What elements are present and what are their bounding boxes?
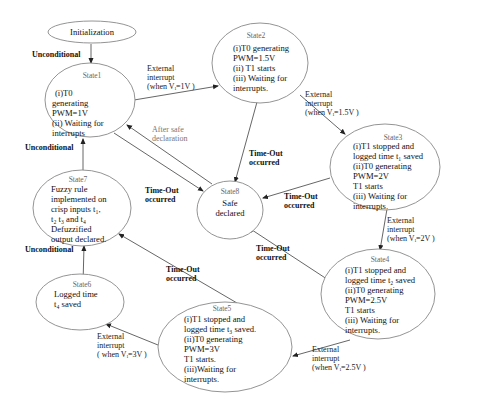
node-state4: State4 (i)T1 stopped and logged time t₂ …: [321, 249, 435, 339]
node-line: interrupts.: [345, 325, 380, 335]
node-line: crisp inputs t₁,: [51, 204, 101, 214]
node-line: (i)T1 stopped and: [184, 314, 246, 324]
node-title: State7: [69, 175, 88, 184]
node-line: implemented on: [51, 194, 107, 204]
node-state6: State6 Logged time t₄ saved: [36, 274, 124, 330]
node-title: State4: [371, 255, 390, 264]
node-line: Fuzzy rule: [51, 184, 88, 194]
node-state5: State5 (i)T1 stopped and logged time t₃ …: [158, 302, 292, 392]
node-state8: State8 Safe declared: [197, 181, 263, 239]
node-line: T1 starts: [345, 305, 375, 315]
edge-label-s1-s8: occurred: [145, 195, 176, 204]
edge-label-s3-s8: Time-Out: [284, 192, 318, 201]
edge-label-s4-s5: External: [312, 345, 340, 354]
node-line: (i)T0 generating: [233, 43, 290, 53]
node-line: PWM=1.5V: [233, 53, 276, 63]
node-title: State5: [213, 304, 232, 313]
edge-label-s3-s8: occurred: [284, 201, 315, 210]
edge-label-s1-s2: External: [147, 64, 175, 73]
edge-label-s4-s5: interrupt: [312, 354, 340, 363]
node-initialization: Initialization: [48, 21, 136, 43]
node-line: logged time t₃ saved.: [184, 324, 256, 334]
node-line: PWM=3V: [184, 344, 221, 354]
node-line: (ii) Waiting for: [52, 118, 104, 128]
node-line: (ii)T0 generating: [184, 334, 243, 344]
edge-label-s5-s7: occurred: [166, 274, 197, 283]
node-line: Logged time: [54, 289, 98, 299]
node-line: interrupts.: [353, 201, 388, 211]
edge-label-s2-s3: External: [305, 90, 333, 99]
node-line: T1 starts.: [184, 354, 216, 364]
node-line: t₂ t₃ and t₄: [51, 214, 86, 224]
edge-label-s2-s8: occurred: [249, 158, 280, 167]
edge-label-unconditional-s6-s7: Unconditional: [25, 245, 74, 254]
node-line: (ii)T0 generating: [345, 285, 404, 295]
edge-label-s2-s3: (when Vᵢ=1.5V ): [305, 108, 359, 117]
node-title: State6: [73, 280, 92, 289]
node-line: (ii)T0 generating: [353, 161, 412, 171]
node-line: output declared.: [51, 234, 106, 244]
node-state2: State2 (i)T0 generating PWM=1.5V (ii) T1…: [212, 23, 308, 103]
node-state7: State7 Fuzzy rule implemented on crisp i…: [33, 170, 131, 246]
edge-label-s5-s6: interrupt: [97, 341, 125, 350]
node-line: (i)T0: [55, 88, 73, 98]
edge-label-unconditional-s7-s1: Unconditional: [25, 143, 74, 152]
node-line: generating: [52, 98, 89, 108]
edge-label-s4-s5: (when Vᵢ=2.5V ): [312, 363, 366, 372]
edge-label-s8-s1: After safe: [152, 125, 184, 134]
edge-state2-to-state8: [235, 102, 257, 182]
node-state1: State1 (i)T0 generating PWM=1V (ii) Wait…: [45, 63, 135, 138]
node-title: State2: [247, 31, 266, 40]
node-line: (i)T1 stopped and: [353, 141, 415, 151]
node-title: State8: [221, 187, 240, 196]
edge-label-s3-s4: (when Vᵢ=2V ): [387, 234, 435, 243]
node-line: (iii) Waiting for: [353, 191, 407, 201]
edge-label-s2-s3: interrupt: [305, 99, 333, 108]
edge-label-s1-s2: interrupt: [147, 73, 175, 82]
edge-label-s1-s2: (when Vᵢ=1V ): [147, 82, 195, 91]
node-line: Safe: [222, 198, 237, 208]
state-diagram: Initialization State1 (i)T0 generating P…: [0, 0, 481, 408]
node-line: PWM=1V: [52, 108, 89, 118]
edge-label-s5-s7: Time-Out: [166, 265, 200, 274]
node-line: (iii)Waiting for: [184, 364, 236, 374]
node-line: interrupts.: [184, 374, 219, 384]
node-line: (iii) Waiting for: [233, 73, 287, 83]
node-line: logged time t₁ saved: [353, 151, 424, 161]
edge-label-s3-s4: External: [387, 216, 415, 225]
edge-state3-to-state4: [380, 209, 387, 250]
node-line: logged time t₂ saved: [345, 275, 416, 285]
edge-label-s3-s4: interrupt: [387, 225, 415, 234]
node-line: interrupts.: [233, 83, 268, 93]
edge-label-s2-s8: Time-Out: [249, 149, 283, 158]
node-line: interrupts: [52, 128, 86, 138]
node-line: PWM=2.5V: [345, 295, 388, 305]
node-line: PWM=2V: [353, 171, 390, 181]
node-line: t₄ saved: [54, 299, 82, 309]
node-line: T1 starts: [353, 181, 383, 191]
node-title: State1: [83, 71, 102, 80]
node-line: declared: [215, 208, 245, 218]
node-state3: State3 (i)T1 stopped and logged time t₁ …: [330, 124, 440, 211]
node-line: (i)T1 stopped and: [345, 265, 407, 275]
node-line: (ii) T1 starts: [233, 63, 276, 73]
edge-label-s8-s1: declaration: [152, 134, 188, 143]
node-line: (iii) Waiting for: [345, 315, 399, 325]
edge-label-s4-s8: occurred: [256, 253, 287, 262]
edge-label-s5-s6: ( when Vᵢ=3V ): [97, 350, 147, 359]
edge-label-unconditional-init: Unconditional: [32, 50, 81, 59]
edge-label-s5-s6: External: [97, 332, 125, 341]
edge-label-s4-s8: Time-Out: [256, 244, 290, 253]
node-line: Defuzzified: [51, 224, 92, 234]
edge-label-s1-s8: Time-Out: [145, 186, 179, 195]
node-label: Initialization: [70, 27, 115, 37]
